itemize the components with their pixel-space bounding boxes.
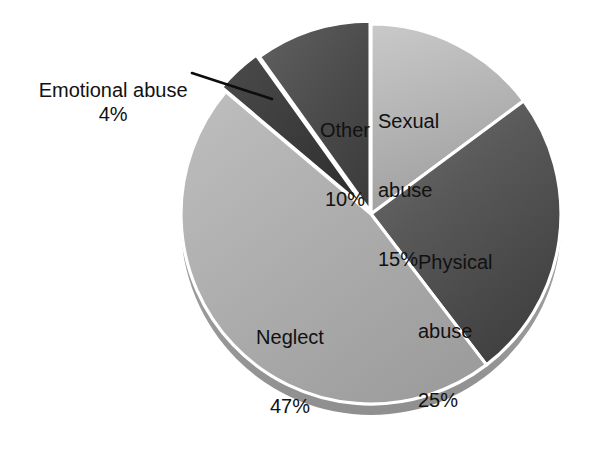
slice-label-emotional-abuse: Emotional abuse 4% [12, 54, 192, 150]
pie-slices-group [181, 21, 561, 404]
slice-label-emotional-abuse-line1: Emotional abuse [39, 79, 188, 101]
slice-value-emotional-abuse: 4% [99, 103, 128, 125]
pie-chart-figure: Sexual abuse 15% Physical abuse 25% Negl… [0, 0, 602, 451]
